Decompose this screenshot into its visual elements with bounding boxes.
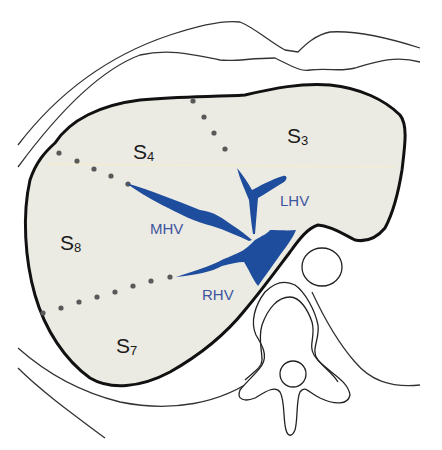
vein-label-rhv: RHV bbox=[202, 286, 234, 303]
diagram-svg: S4 S3 S8 S7 LHV MHV RHV bbox=[0, 0, 442, 450]
aorta-cross-section bbox=[302, 248, 342, 286]
liver-cross-section-diagram: S4 S3 S8 S7 LHV MHV RHV bbox=[0, 0, 442, 450]
vein-label-lhv: LHV bbox=[280, 192, 309, 209]
vertebra-outer bbox=[239, 282, 350, 435]
vein-label-mhv: MHV bbox=[150, 220, 183, 237]
spinal-canal bbox=[280, 361, 306, 387]
liver-outline bbox=[25, 85, 405, 386]
